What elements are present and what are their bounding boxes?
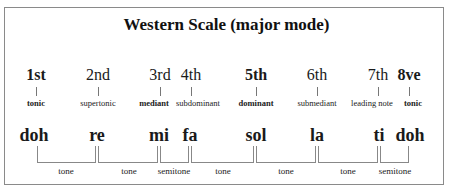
solfege-syllable: mi [149, 125, 169, 146]
degree-role: supertonic [80, 98, 115, 108]
degree-role: dominant [239, 98, 274, 108]
interval-label: semitone [379, 166, 412, 176]
degree-number: 8ve [397, 66, 420, 84]
solfege-syllable: doh [19, 125, 48, 146]
interval-label: tone [121, 166, 137, 176]
degree-number: 5th [245, 66, 267, 84]
degree-tick [256, 87, 257, 96]
interval-bracket [37, 146, 96, 163]
degree-role: leading note [351, 98, 393, 108]
interval-label: tone [278, 166, 294, 176]
degree-number: 6th [307, 66, 327, 84]
interval-bracket [256, 146, 316, 163]
degree-role: tonic [404, 98, 422, 108]
interval-bracket [380, 146, 409, 163]
solfege-syllable: re [89, 125, 105, 146]
solfege-syllable: sol [245, 125, 266, 146]
degree-role: submediant [297, 98, 336, 108]
diagram-title: Western Scale (major mode) [0, 15, 453, 35]
degree-tick [378, 87, 379, 96]
degree-tick [36, 87, 37, 96]
interval-label: tone [58, 166, 74, 176]
degree-role: tonic [27, 98, 45, 108]
degree-number: 2nd [86, 66, 110, 84]
interval-bracket [160, 146, 189, 163]
degree-tick [160, 87, 161, 96]
interval-label: semitone [158, 166, 191, 176]
interval-bracket [318, 146, 378, 163]
solfege-syllable: doh [395, 125, 424, 146]
degree-number: 4th [181, 66, 201, 84]
degree-tick [317, 87, 318, 96]
degree-number: 7th [368, 66, 388, 84]
interval-label: tone [215, 166, 231, 176]
interval-bracket [191, 146, 254, 163]
interval-label: tone [340, 166, 356, 176]
degree-tick [191, 87, 192, 96]
degree-role: subdominant [176, 98, 220, 108]
degree-tick [409, 87, 410, 96]
degree-tick [98, 87, 99, 96]
solfege-syllable: fa [183, 125, 198, 146]
degree-number: 3rd [149, 66, 170, 84]
solfege-syllable: ti [374, 125, 385, 146]
interval-bracket [98, 146, 158, 163]
degree-role: mediant [139, 98, 169, 108]
solfege-syllable: la [310, 125, 324, 146]
degree-number: 1st [26, 66, 46, 84]
